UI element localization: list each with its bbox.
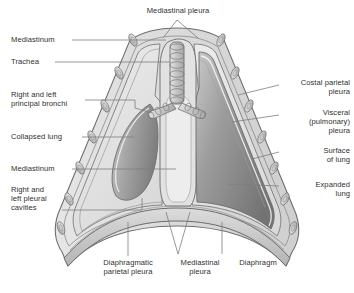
label-pleural-cavities: Right and left pleural cavities xyxy=(11,185,73,213)
label-costal-parietal-pleura: Costal parietal pleura xyxy=(282,78,350,96)
label-expanded-lung: Expanded lung xyxy=(282,180,350,198)
label-diaphragmatic-parietal-pleura: Diaphragmatic parietal pleura xyxy=(87,258,169,276)
anatomy-figure-page: Mediastinal pleura Mediastinum Trachea R… xyxy=(0,0,354,293)
trachea-group xyxy=(170,42,184,104)
label-mediastinum-lower: Mediastinum xyxy=(11,164,81,173)
label-mediastinum-upper: Mediastinum xyxy=(11,35,81,44)
label-principal-bronchi: Right and left principal bronchi xyxy=(11,90,91,108)
label-diaphragm: Diaphragm xyxy=(228,258,288,267)
label-surface-of-lung: Surface of lung xyxy=(282,146,350,164)
label-collapsed-lung: Collapsed lung xyxy=(11,132,87,141)
label-mediastinal-pleura-top: Mediastinal pleura xyxy=(126,6,230,15)
label-visceral-pleura: Visceral (pulmonary) pleura xyxy=(282,108,350,136)
label-mediastinal-pleura-bottom: Mediastinal pleura xyxy=(172,258,228,276)
label-trachea: Trachea xyxy=(11,57,71,66)
